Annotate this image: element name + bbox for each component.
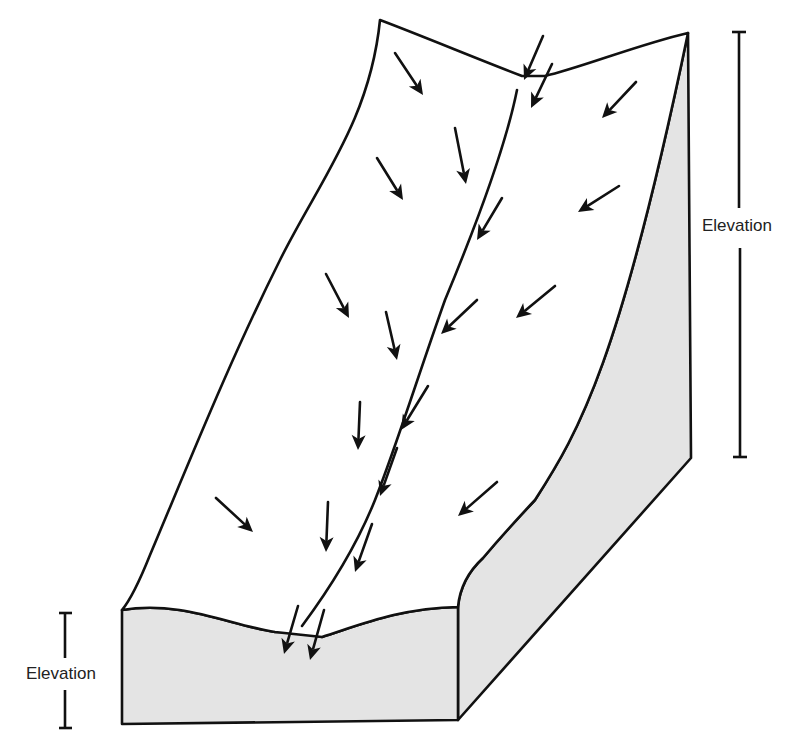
flow-arrow-icon [524,36,543,80]
left-elevation-label: Elevation [26,664,96,684]
valley-slope-diagram [0,0,811,751]
right-elevation-label: Elevation [702,216,772,236]
right-elevation-scale [732,32,747,457]
